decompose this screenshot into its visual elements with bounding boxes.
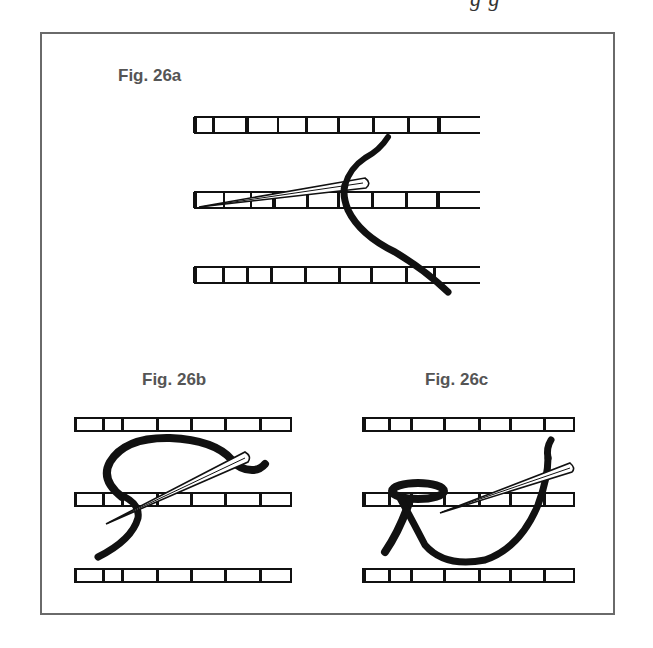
needle-icon <box>106 452 249 524</box>
thread-icon <box>344 137 448 292</box>
canvas-strip-top <box>362 418 574 431</box>
thread-icon <box>385 440 551 562</box>
figure-26a-illustration <box>193 117 480 292</box>
canvas-strip-bottom <box>362 569 574 582</box>
figure-26c-illustration <box>362 418 574 582</box>
canvas-strip-top <box>74 418 291 431</box>
canvas-strip-middle <box>74 493 291 506</box>
canvas-strip-top <box>193 117 480 133</box>
figure-26b-illustration <box>74 418 291 582</box>
canvas-strip-bottom <box>74 569 291 582</box>
